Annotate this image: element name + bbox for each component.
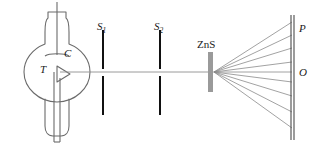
scattered-ray-fan: [214, 22, 292, 128]
label-zns: ZnS: [197, 38, 215, 50]
label-slit-1-index: 1: [103, 26, 107, 35]
zns-foil: [208, 52, 213, 92]
scattered-ray-up-2: [214, 35, 292, 72]
label-screen-top: P: [299, 22, 306, 34]
tube-bottom-stem: [45, 99, 69, 136]
label-screen-center: O: [299, 66, 307, 78]
scattered-ray-up-1: [214, 22, 292, 72]
label-slit-1: S1: [97, 20, 106, 35]
scattered-ray-up-4: [214, 62, 292, 72]
label-target: T: [40, 63, 46, 75]
label-cathode: C: [64, 47, 71, 59]
scattered-ray-up-3: [214, 48, 292, 72]
detection-screen: [291, 15, 294, 140]
target-electrode: [54, 66, 70, 142]
label-slit-2-index: 2: [160, 26, 164, 35]
label-slit-2: S2: [154, 20, 163, 35]
target-head: [57, 66, 70, 82]
